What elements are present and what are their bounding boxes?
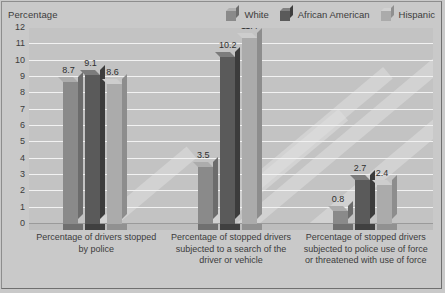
y-axis-title: Percentage [8,9,58,20]
bar-value-label: 2.4 [376,168,389,178]
y-tick-label: 4 [3,154,25,163]
bar-base-shadow [242,224,262,230]
category-label: Percentage of stopped drivers subjected … [164,232,299,288]
bar: 8.6 [107,84,122,224]
bar-base-shadow [107,224,127,230]
category-label: Percentage of stopped drivers subjected … [298,232,433,288]
bar-value-label: 8.6 [106,67,119,77]
plot-area: 8.79.18.63.510.211.40.82.72.4 [29,28,433,224]
y-tick-label: 9 [3,72,25,81]
y-tick-label: 10 [3,56,25,65]
bar-value-label: 8.7 [62,65,75,75]
bar-base-shadow [220,224,240,230]
bar: 10.2 [220,57,235,224]
bar-base-shadow [377,224,397,230]
bar: 2.4 [377,185,392,224]
y-tick-label: 1 [3,203,25,212]
y-tick-label: 5 [3,137,25,146]
bar-value-label: 2.7 [354,163,367,173]
category-label: Percentage of drivers stopped by police [29,232,164,288]
bar: 11.4 [242,38,257,224]
bar-base-shadow [63,224,83,230]
legend-item-white: White [226,8,268,21]
bar-chart: Percentage White African American Hispan… [0,0,445,293]
y-axis-ticks: 1211109876543210 [3,28,25,224]
bar: 9.1 [85,75,100,224]
y-tick-label: 6 [3,121,25,130]
legend-label: African American [298,9,370,20]
bar: 3.5 [198,167,213,224]
bar-base-shadow [85,224,105,230]
bar-base-shadow [333,224,353,230]
bar-series-layer: 8.79.18.63.510.211.40.82.72.4 [29,28,433,224]
y-tick-label: 12 [3,23,25,32]
y-tick-label: 8 [3,88,25,97]
legend-label: Hispanic [399,9,435,20]
bar: 8.7 [63,82,78,224]
y-tick-label: 0 [3,219,25,228]
x-axis-categories: Percentage of drivers stopped by police … [29,232,433,288]
y-tick-label: 3 [3,170,25,179]
chart-floor [29,224,433,230]
legend-swatch-icon [381,8,394,21]
bar-value-label: 10.2 [219,40,237,50]
legend-swatch-icon [280,8,293,21]
legend-item-african-american: African American [280,8,370,21]
bar-value-label: 9.1 [84,58,97,68]
legend-item-hispanic: Hispanic [381,8,435,21]
legend-label: White [244,9,268,20]
bar-base-shadow [198,224,218,230]
bar-value-label: 0.8 [332,194,345,204]
bar-group: 8.79.18.6 [29,28,164,224]
y-tick-label: 7 [3,105,25,114]
y-tick-label: 11 [3,39,25,48]
chart-legend: White African American Hispanic [226,8,435,21]
bar: 2.7 [355,180,370,224]
bar-group: 0.82.72.4 [298,28,433,224]
bar: 0.8 [333,211,348,224]
y-tick-label: 2 [3,186,25,195]
bar-group: 3.510.211.4 [164,28,299,224]
bar-value-label: 11.4 [241,28,258,31]
bar-value-label: 3.5 [197,150,210,160]
legend-swatch-icon [226,8,239,21]
bar-base-shadow [355,224,375,230]
